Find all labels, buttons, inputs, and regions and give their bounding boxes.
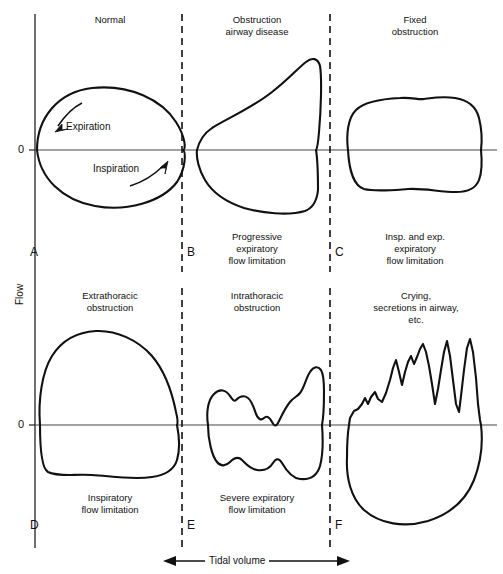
- zero-label-top: 0: [18, 143, 24, 155]
- loop-curve-extrathoracic-obstruction: [40, 331, 179, 478]
- panel-letter-b: B: [187, 245, 195, 259]
- loop-curve-normal: [37, 87, 185, 207]
- flow-volume-loop-figure: 0 0 Flow Tidal volume A B C D E F Normal…: [0, 0, 503, 574]
- panel-letter-d: D: [30, 518, 39, 532]
- panel-letter-c: C: [335, 245, 344, 259]
- loop-curve-fixed-obstruction: [347, 97, 481, 192]
- inspiration-annotation: Inspiration: [93, 163, 139, 174]
- panel-letter-a: A: [30, 245, 38, 259]
- inspiration-arrow-head: [160, 161, 168, 174]
- tidal-volume-arrow-head-left: [163, 556, 176, 566]
- loop-curve-obstructive-airway-disease: [197, 59, 321, 214]
- panel-letter-f: F: [335, 518, 342, 532]
- tidal-volume-label: Tidal volume: [205, 555, 269, 566]
- loop-curve-crying-secretions: [347, 339, 482, 524]
- loop-curve-intrathoracic-obstruction: [207, 367, 324, 479]
- panel-letter-e: E: [187, 518, 195, 532]
- expiration-annotation: Expiration: [66, 121, 110, 132]
- zero-label-bottom: 0: [18, 418, 24, 430]
- flow-axis-label: Flow: [14, 284, 25, 305]
- figure-canvas: [0, 0, 503, 574]
- tidal-volume-arrow-head-right: [337, 556, 350, 566]
